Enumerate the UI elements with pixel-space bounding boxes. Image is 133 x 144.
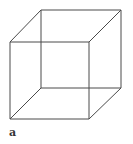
necker-cube-diagram <box>0 0 133 144</box>
edge-top-left <box>10 10 41 42</box>
edge-bottom-right <box>89 88 121 119</box>
edge-bottom-left <box>10 88 41 119</box>
edge-top-right <box>89 10 121 42</box>
figure-label: a <box>9 126 16 139</box>
